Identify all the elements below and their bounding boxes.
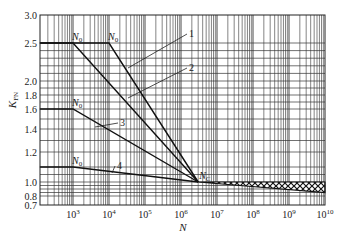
svg-text:1.8: 1.8 xyxy=(25,90,38,101)
svg-text:3: 3 xyxy=(120,117,125,128)
svg-text:0.8: 0.8 xyxy=(25,191,38,202)
x-axis-label: N xyxy=(178,221,187,233)
svg-text:KFN: KFN xyxy=(6,92,20,109)
svg-text:1010: 1010 xyxy=(317,208,335,220)
y-axis-label: KFN xyxy=(6,92,20,109)
svg-text:104: 104 xyxy=(102,208,116,220)
svg-text:106: 106 xyxy=(174,208,188,220)
svg-text:1.6: 1.6 xyxy=(25,104,38,115)
annotation-labels: N0N0N0N0NC1234 xyxy=(71,28,211,183)
svg-text:107: 107 xyxy=(210,208,224,220)
svg-text:105: 105 xyxy=(138,208,152,220)
svg-text:109: 109 xyxy=(282,208,296,220)
svg-text:1.0: 1.0 xyxy=(25,177,38,188)
y-tick-labels: 0.70.81.01.21.41.61.82.02.53.0 xyxy=(25,10,38,211)
svg-text:108: 108 xyxy=(246,208,260,220)
svg-text:2: 2 xyxy=(189,62,194,73)
x-tick-labels: 1031041051061071081091010 xyxy=(66,208,334,220)
kfn-life-factor-chart: 0.70.81.01.21.41.61.82.02.53.0 103104105… xyxy=(0,0,340,235)
svg-text:1: 1 xyxy=(189,28,194,39)
svg-text:3.0: 3.0 xyxy=(25,10,38,21)
svg-text:4: 4 xyxy=(117,160,122,171)
svg-text:1.2: 1.2 xyxy=(25,147,38,158)
svg-text:103: 103 xyxy=(66,208,80,220)
svg-text:2.5: 2.5 xyxy=(25,38,38,49)
svg-text:2.0: 2.0 xyxy=(25,76,38,87)
svg-text:1.4: 1.4 xyxy=(25,124,38,135)
